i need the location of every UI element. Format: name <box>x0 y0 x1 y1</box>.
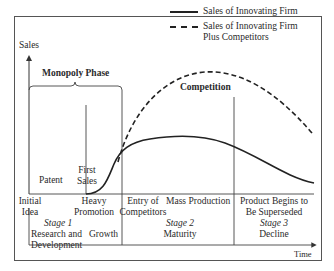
event-heavy-promotion-line2: Promotion <box>72 207 116 218</box>
stage-1-line1: Research and <box>31 229 82 240</box>
stage-2-title: Stage 2 <box>150 218 210 229</box>
event-entry-line1: Entry of <box>118 196 168 207</box>
solid-curve-firm-sales <box>86 136 314 194</box>
event-superseded-line2: Be Superseded <box>236 207 312 218</box>
legend-label-dashed-line1: Sales of Innovating Firm <box>203 21 298 32</box>
label-first-sales-line1: First <box>73 165 101 176</box>
label-patent: Patent <box>39 175 63 186</box>
stage-2-line1: Maturity <box>150 229 210 240</box>
stage-3: Stage 3 Decline <box>244 218 304 240</box>
stage-1-line2: Development <box>31 240 82 251</box>
stage-1: Stage 1 Research and Development <box>31 218 82 251</box>
legend-label-solid: Sales of Innovating Firm <box>203 6 298 17</box>
event-initial-idea-line2: Idea <box>14 207 46 218</box>
event-initial-idea: Initial Idea <box>14 196 46 218</box>
x-axis-label: Time <box>294 249 312 260</box>
phase-monopoly: Monopoly Phase <box>42 68 109 79</box>
event-product-superseded: Product Begins to Be Superseded <box>236 196 312 218</box>
label-first-sales-line2: Sales <box>73 176 101 187</box>
monopoly-bracket <box>29 82 122 90</box>
phase-competition: Competition <box>180 82 231 93</box>
legend-label-dashed-wrap: Sales of Innovating Firm Plus Competitor… <box>203 21 298 43</box>
legend-label-dashed-line2: Plus Competitors <box>203 32 298 43</box>
stage-2: Stage 2 Maturity <box>150 218 210 240</box>
legend-item-dashed: Sales of Innovating Firm Plus Competitor… <box>170 21 298 43</box>
event-entry-line2: Competitors <box>118 207 168 218</box>
event-heavy-promotion: Heavy Promotion <box>72 196 116 218</box>
label-first-sales: First Sales <box>73 165 101 187</box>
dashed-line-icon <box>170 26 198 28</box>
stage-growth: Growth <box>89 229 118 240</box>
event-initial-idea-line1: Initial <box>14 196 46 207</box>
event-heavy-promotion-line1: Heavy <box>72 196 116 207</box>
solid-line-icon <box>170 11 198 13</box>
stage-1-title: Stage 1 <box>31 218 82 229</box>
y-axis-label: Sales <box>19 40 39 51</box>
event-superseded-line1: Product Begins to <box>236 196 312 207</box>
stage-3-line1: Decline <box>244 229 304 240</box>
event-mass-production: Mass Production <box>166 196 230 207</box>
legend-item-solid: Sales of Innovating Firm <box>170 6 298 17</box>
event-entry-of-competitors: Entry of Competitors <box>118 196 168 218</box>
stage-3-title: Stage 3 <box>244 218 304 229</box>
